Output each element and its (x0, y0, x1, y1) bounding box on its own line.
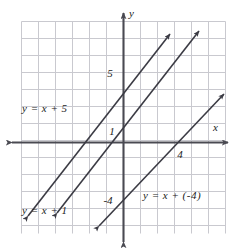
tick-label-y-minus-4: -4 (103, 194, 113, 206)
tick-label-y-5: 5 (107, 67, 113, 79)
graph-canvas: x y 5 1 -4 4 y = x + 5 y = x + 1 y = x +… (0, 0, 241, 251)
equation-label-line3: y = x + (-4) (142, 189, 201, 202)
equation-label-line2: y = x + 1 (21, 204, 68, 216)
equation-label-line1: y = x + 5 (21, 102, 68, 114)
line-y-equals-x-plus-1 (57, 31, 199, 213)
y-axis-label: y (128, 7, 134, 19)
x-axis-label: x (212, 121, 218, 133)
tick-label-y-1: 1 (109, 125, 115, 137)
coordinate-plane-figure: x y 5 1 -4 4 y = x + 5 y = x + 1 y = x +… (0, 0, 241, 251)
tick-label-x-4: 4 (177, 148, 183, 160)
line-y-equals-x-minus-4 (99, 94, 224, 226)
